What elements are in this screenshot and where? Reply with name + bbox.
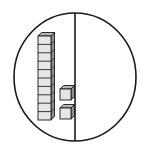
base-ten-blocks-figure: Base-ten blocks inside a divided circle …: [0, 0, 150, 153]
ten-rod: [38, 33, 55, 121]
unit-cube-1: [60, 86, 75, 101]
unit-cube-2: [60, 105, 75, 120]
figure-canvas: Base-ten blocks inside a divided circle …: [0, 0, 150, 153]
unit-cube-1-front-face: [60, 89, 71, 100]
unit-cube-2-front-face: [60, 108, 71, 119]
